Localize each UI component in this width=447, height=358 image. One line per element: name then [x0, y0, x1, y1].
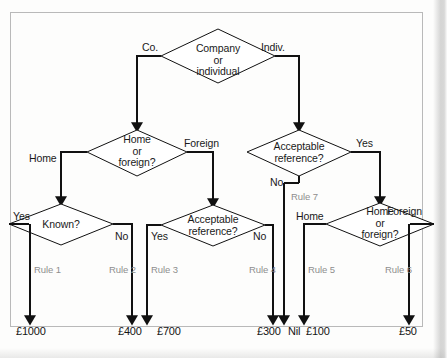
node-line: individual: [185, 66, 251, 78]
node-line: Acceptable: [258, 141, 340, 153]
rule-label-6: Rule 6: [385, 265, 412, 275]
branch-label-foreign-right: Foreign: [387, 206, 422, 217]
branch-label-no-reference-bottom: No: [253, 231, 266, 242]
branch-label-yes-reference-top: Yes: [356, 138, 373, 149]
node-label-acceptable-reference-top: Acceptable reference?: [258, 141, 340, 164]
node-line: reference?: [172, 226, 254, 238]
rule-label-7: Rule 7: [291, 192, 318, 202]
rule-label-3: Rule 3: [151, 265, 178, 275]
page-bottom-shadow: [0, 348, 447, 358]
flowchart-page: Company or individual Home or foreign? A…: [0, 0, 447, 358]
node-line: Home: [107, 134, 167, 146]
node-line: foreign?: [350, 229, 410, 241]
node-label-home-or-foreign-left: Home or foreign?: [107, 134, 167, 169]
rule-label-2: Rule 2: [109, 265, 136, 275]
rule-label-4: Rule 4: [249, 265, 276, 275]
branch-label-co: Co.: [142, 42, 158, 53]
branch-label-home-left: Home: [29, 153, 57, 164]
node-line: foreign?: [107, 157, 167, 169]
branch-label-home-right: Home: [296, 211, 324, 222]
outcome-label-nil: Nil: [288, 326, 300, 337]
page-right-edge-shadow: [433, 0, 447, 358]
outcome-label-700: £700: [157, 326, 181, 337]
rule-label-1: Rule 1: [34, 265, 61, 275]
node-line: Company: [185, 43, 251, 55]
branch-label-no-known: No: [115, 231, 128, 242]
node-line: Acceptable: [172, 214, 254, 226]
branch-label-foreign-left: Foreign: [184, 138, 219, 149]
outcome-label-300: £300: [257, 326, 281, 337]
node-label-known: Known?: [33, 219, 89, 231]
node-line: reference?: [258, 153, 340, 165]
rule-label-5: Rule 5: [308, 265, 335, 275]
outcome-label-1000: £1000: [16, 326, 46, 337]
node-line: Known?: [33, 219, 89, 231]
branch-label-no-reference-top: No: [270, 177, 283, 188]
branch-label-yes-reference-bottom: Yes: [151, 231, 168, 242]
branch-label-indiv: Indiv.: [261, 42, 285, 53]
outcome-label-400: £400: [118, 326, 142, 337]
branch-label-yes-known: Yes: [13, 211, 30, 222]
outcome-label-50: £50: [399, 326, 417, 337]
node-label-acceptable-reference-bottom: Acceptable reference?: [172, 214, 254, 237]
outcome-label-100: £100: [306, 326, 330, 337]
node-label-company-or-individual: Company or individual: [185, 43, 251, 78]
